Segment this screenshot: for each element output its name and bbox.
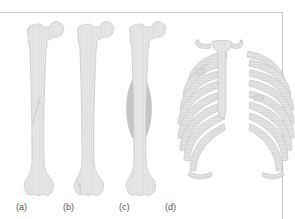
femur-panel-a (24, 22, 64, 196)
bone-illustration (0, 0, 295, 219)
panel-label-c: (c) (119, 202, 130, 212)
rib-cage-panel-d (178, 40, 294, 179)
femur-panel-c (126, 22, 166, 196)
panel-label-a: (a) (16, 202, 27, 212)
panel-label-b: (b) (63, 202, 74, 212)
femur-panel-b (74, 22, 114, 196)
panel-label-d: (d) (165, 202, 176, 212)
